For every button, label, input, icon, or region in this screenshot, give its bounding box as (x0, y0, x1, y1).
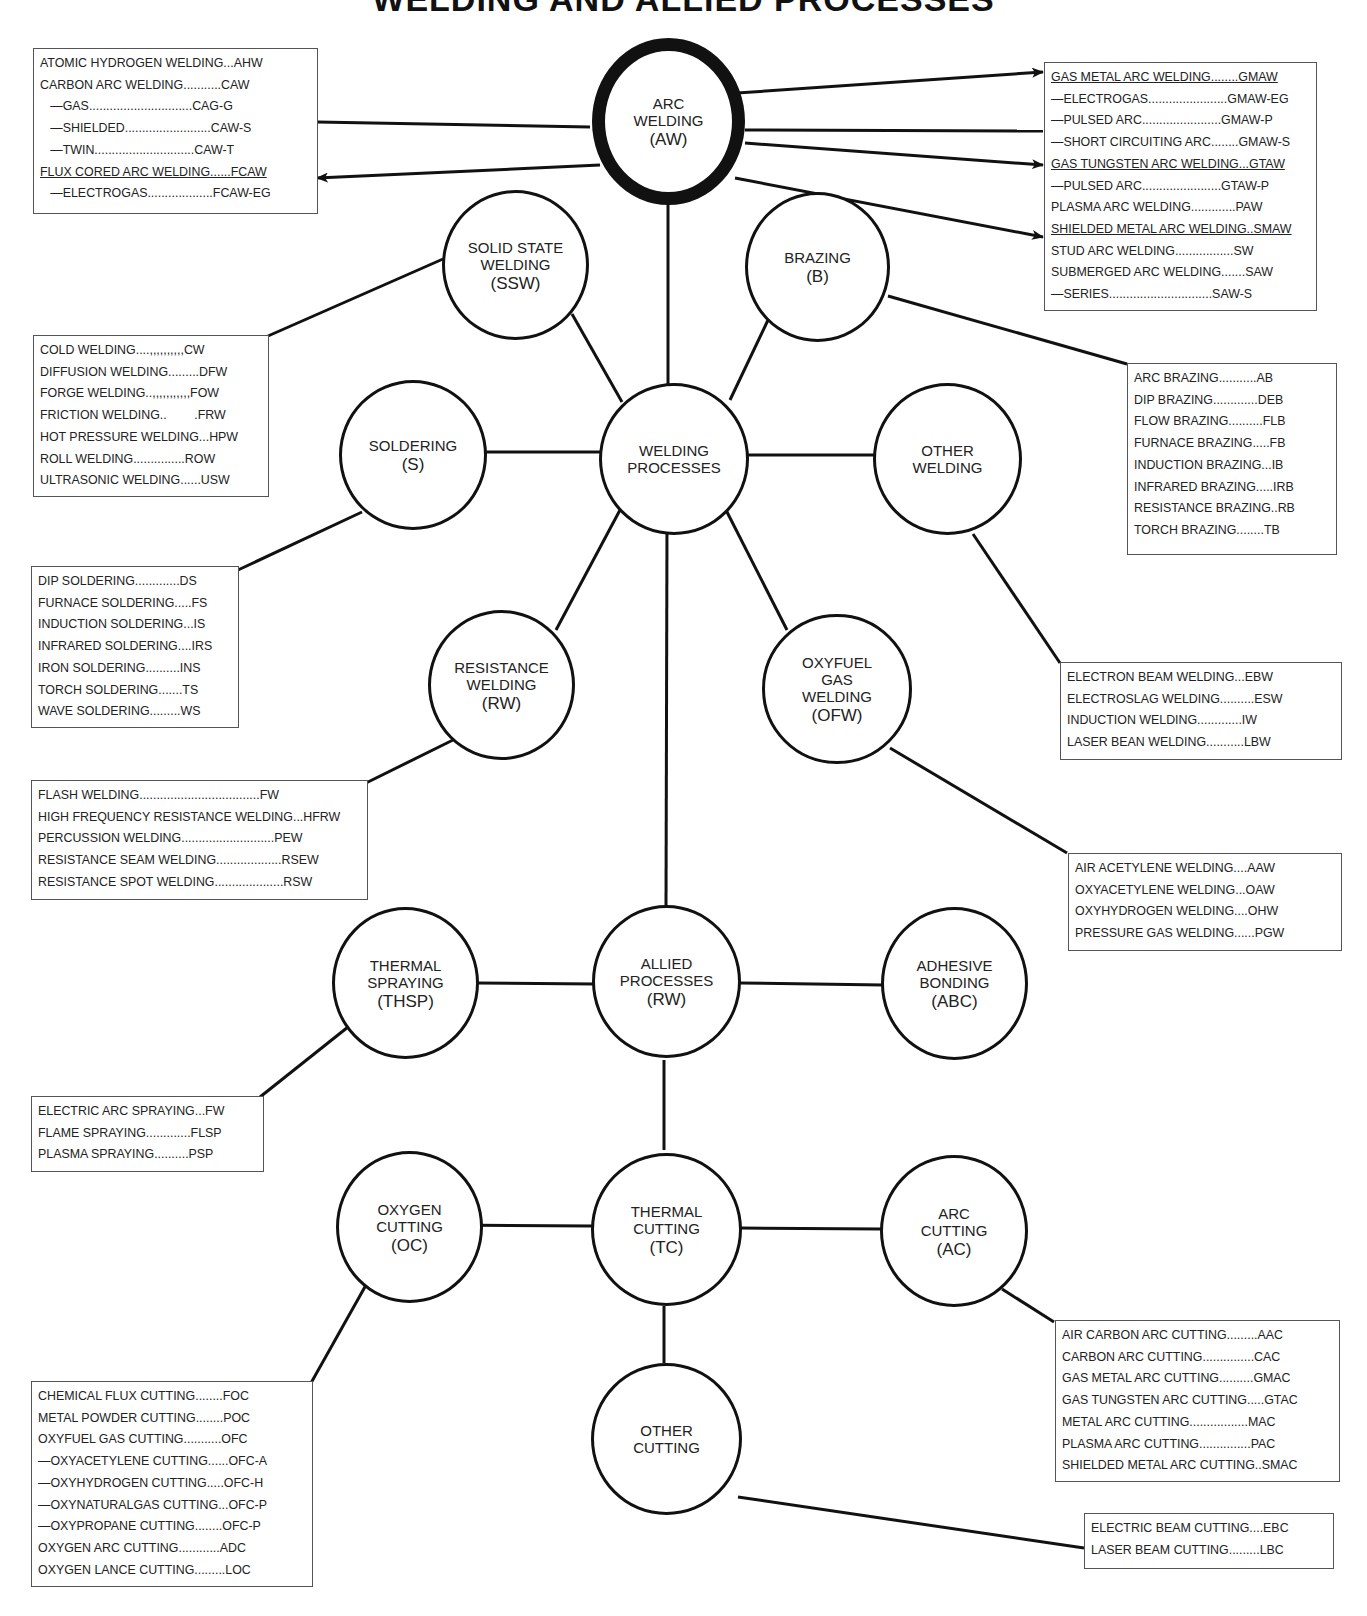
list-item: AIR ACETYLENE WELDING....AAW (1075, 858, 1336, 880)
list-item: —OXYACETYLENE CUTTING......OFC-A (38, 1451, 307, 1473)
list-item: —ELECTROGAS.......................GMAW-E… (1051, 89, 1311, 111)
node-label-line: SOLID STATE (468, 239, 563, 256)
list-other-welding: ELECTRON BEAM WELDING...EBW ELECTROSLAG … (1060, 662, 1342, 760)
list-solid-state-welding: COLD WELDING....,,,,,,,,,,CW DIFFUSION W… (33, 335, 269, 497)
list-item: SHIELDED METAL ARC WELDING..SMAW (1051, 219, 1311, 241)
node-label-line: CUTTING (376, 1218, 443, 1235)
list-item: TORCH BRAZING........TB (1134, 520, 1331, 542)
list-item: HOT PRESSURE WELDING...HPW (40, 427, 263, 449)
list-item: ROLL WELDING...............ROW (40, 449, 263, 471)
list-item: FLASH WELDING...........................… (38, 785, 362, 807)
node-label-line: ARC (653, 95, 685, 112)
list-item: INFRARED BRAZING.....IRB (1134, 477, 1331, 499)
list-item: ELECTRON BEAM WELDING...EBW (1067, 667, 1336, 689)
list-item: OXYGEN LANCE CUTTING.........LOC (38, 1560, 307, 1582)
node-oxyfuel-gas-welding: OXYFUEL GAS WELDING (OFW) (762, 614, 912, 764)
node-label-line: PROCESSES (620, 972, 713, 989)
node-abbreviation: (B) (806, 268, 829, 285)
node-label-line: WELDING (633, 112, 703, 129)
list-item: AIR CARBON ARC CUTTING.........AAC (1062, 1325, 1334, 1347)
node-allied-processes: ALLIED PROCESSES (RW) (592, 905, 741, 1058)
list-item: IRON SOLDERING..........INS (38, 658, 233, 680)
list-item: PERCUSSION WELDING......................… (38, 828, 362, 850)
list-item: OXYACETYLENE WELDING...OAW (1075, 880, 1336, 902)
node-abbreviation: (AC) (937, 1241, 972, 1258)
list-item: OXYFUEL GAS CUTTING...........OFC (38, 1429, 307, 1451)
node-solid-state-welding: SOLID STATE WELDING (SSW) (442, 190, 589, 340)
node-label-line: WELDING (912, 459, 982, 476)
list-item: RESISTANCE SEAM WELDING.................… (38, 850, 362, 872)
node-abbreviation: (OFW) (812, 707, 863, 724)
node-other-welding: OTHER WELDING (873, 383, 1022, 535)
list-item: INDUCTION SOLDERING...IS (38, 614, 233, 636)
node-abbreviation: (RW) (647, 991, 686, 1008)
node-welding-processes: WELDING PROCESSES (599, 383, 749, 535)
list-item: —OXYNATURALGAS CUTTING...OFC-P (38, 1495, 307, 1517)
list-item: —ELECTROGAS...................FCAW-EG (40, 183, 312, 205)
list-item: OXYHYDROGEN WELDING....OHW (1075, 901, 1336, 923)
node-label-line: THERMAL (631, 1203, 703, 1220)
list-item: DIFFUSION WELDING.........DFW (40, 362, 263, 384)
list-soldering: DIP SOLDERING.............DS FURNACE SOL… (31, 566, 239, 728)
list-item: —PULSED ARC.......................GMAW-P (1051, 110, 1311, 132)
list-item: FORGE WELDING..,,,,,,,,,,,FOW (40, 383, 263, 405)
list-item: —SERIES..............................SAW… (1051, 284, 1311, 306)
list-item: SHIELDED METAL ARC CUTTING..SMAC (1062, 1455, 1334, 1477)
node-label-line: BONDING (919, 974, 989, 991)
node-label-line: SPRAYING (367, 974, 443, 991)
list-item: GAS TUNGSTEN ARC WELDING...GTAW (1051, 154, 1311, 176)
list-item: FURNACE BRAZING.....FB (1134, 433, 1331, 455)
list-item: METAL POWDER CUTTING........POC (38, 1408, 307, 1430)
node-label-line: ARC (938, 1205, 970, 1222)
node-abbreviation: (SSW) (490, 275, 540, 292)
node-label-line: ALLIED (641, 955, 693, 972)
list-item: CARBON ARC CUTTING...............CAC (1062, 1347, 1334, 1369)
list-item: —TWIN.............................CAW-T (40, 140, 312, 162)
list-item: OXYGEN ARC CUTTING............ADC (38, 1538, 307, 1560)
list-item: INFRARED SOLDERING....IRS (38, 636, 233, 658)
node-label-line: CUTTING (633, 1439, 700, 1456)
node-abbreviation: (ABC) (931, 993, 977, 1010)
list-item: CARBON ARC WELDING...........CAW (40, 75, 312, 97)
list-brazing: ARC BRAZING...........AB DIP BRAZING....… (1127, 363, 1337, 555)
node-label-line: ADHESIVE (917, 957, 993, 974)
list-arc-welding-right: GAS METAL ARC WELDING........GMAW —ELECT… (1044, 62, 1317, 311)
list-oxyfuel-gas-welding: AIR ACETYLENE WELDING....AAW OXYACETYLEN… (1068, 853, 1342, 951)
list-item: FLOW BRAZING..........FLB (1134, 411, 1331, 433)
list-item: PLASMA ARC WELDING.............PAW (1051, 197, 1311, 219)
list-item: INDUCTION BRAZING...IB (1134, 455, 1331, 477)
list-thermal-spraying: ELECTRIC ARC SPRAYING...FW FLAME SPRAYIN… (31, 1096, 264, 1172)
node-label-line: PROCESSES (627, 459, 720, 476)
list-item: PLASMA SPRAYING..........PSP (38, 1144, 258, 1166)
list-item: DIP BRAZING.............DEB (1134, 390, 1331, 412)
list-arc-welding-left: ATOMIC HYDROGEN WELDING...AHW CARBON ARC… (33, 48, 318, 214)
list-item: TORCH SOLDERING.......TS (38, 680, 233, 702)
list-item: DIP SOLDERING.............DS (38, 571, 233, 593)
node-label-line: WELDING (480, 256, 550, 273)
list-item: ARC BRAZING...........AB (1134, 368, 1331, 390)
list-item: CHEMICAL FLUX CUTTING........FOC (38, 1386, 307, 1408)
list-item: ELECTRIC BEAM CUTTING....EBC (1091, 1518, 1328, 1540)
list-item: FLAME SPRAYING.............FLSP (38, 1123, 258, 1145)
node-thermal-spraying: THERMAL SPRAYING (THSP) (332, 907, 479, 1059)
node-label-line: SOLDERING (369, 437, 457, 454)
list-item: GAS METAL ARC CUTTING..........GMAC (1062, 1368, 1334, 1390)
list-resistance-welding: FLASH WELDING...........................… (31, 780, 368, 900)
node-adhesive-bonding: ADHESIVE BONDING (ABC) (881, 907, 1028, 1060)
list-item: FURNACE SOLDERING.....FS (38, 593, 233, 615)
node-arc-cutting: ARC CUTTING (AC) (880, 1155, 1028, 1307)
node-brazing: BRAZING (B) (745, 192, 890, 342)
node-abbreviation: (RW) (482, 695, 521, 712)
list-item: INDUCTION WELDING.............IW (1067, 710, 1336, 732)
list-item: METAL ARC CUTTING.................MAC (1062, 1412, 1334, 1434)
list-item: LASER BEAM CUTTING.........LBC (1091, 1540, 1328, 1562)
node-resistance-welding: RESISTANCE WELDING (RW) (428, 610, 575, 760)
list-item: ULTRASONIC WELDING......USW (40, 470, 263, 492)
node-other-cutting: OTHER CUTTING (591, 1363, 742, 1515)
node-label-line: OXYFUEL (802, 654, 872, 671)
node-abbreviation: (THSP) (377, 993, 434, 1010)
list-item: ELECTRIC ARC SPRAYING...FW (38, 1101, 258, 1123)
node-label-line: RESISTANCE (454, 659, 549, 676)
list-item: PRESSURE GAS WELDING......PGW (1075, 923, 1336, 945)
list-item: HIGH FREQUENCY RESISTANCE WELDING...HFRW (38, 807, 362, 829)
